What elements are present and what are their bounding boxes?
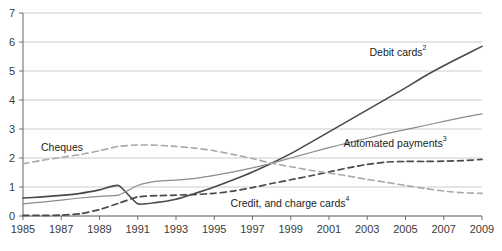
data-series-group (23, 46, 482, 215)
x-tick-label-1987: 1987 (49, 223, 73, 235)
series-line-cheques (23, 145, 482, 193)
series-label-debit-cards: Debit cards2 (369, 43, 426, 58)
x-tick-label-1995: 1995 (202, 223, 226, 235)
x-tick-label-2003: 2003 (355, 223, 379, 235)
series-label-footnote-credit-and-charge-cards: 4 (346, 194, 350, 201)
line-chart: 01234567 1985198719891991199319951997199… (0, 0, 502, 251)
series-labels-group: Debit cards2Automated payments3Credit, a… (41, 43, 447, 209)
x-tick-label-1997: 1997 (240, 223, 264, 235)
series-label-name-automated-payments: Automated payments (343, 137, 442, 149)
x-tick-label-2007: 2007 (432, 223, 456, 235)
y-tick-label-6: 6 (9, 36, 15, 48)
y-tick-label-3: 3 (9, 123, 15, 135)
series-label-credit-and-charge-cards: Credit, and charge cards4 (231, 194, 350, 209)
y-tick-label-1: 1 (9, 181, 15, 193)
y-tick-label-7: 7 (9, 7, 15, 19)
series-label-automated-payments: Automated payments3 (343, 134, 446, 149)
x-tick-label-2001: 2001 (317, 223, 341, 235)
y-axis-tick-labels: 01234567 (9, 7, 15, 222)
x-axis-tick-labels: 1985198719891991199319951997199920012003… (11, 223, 494, 235)
x-tick-label-2005: 2005 (393, 223, 417, 235)
series-label-name-credit-and-charge-cards: Credit, and charge cards (231, 197, 346, 209)
series-label-cheques: Cheques (41, 141, 83, 153)
x-tick-label-1985: 1985 (11, 223, 35, 235)
x-tick-label-1993: 1993 (164, 223, 188, 235)
series-label-footnote-debit-cards: 2 (423, 43, 427, 50)
series-label-name-cheques: Cheques (41, 141, 83, 153)
gridlines-group (23, 13, 482, 216)
x-axis-ticks-group (23, 216, 482, 220)
series-label-footnote-automated-payments: 3 (443, 134, 447, 141)
y-tick-label-5: 5 (9, 65, 15, 77)
x-tick-label-2009: 2009 (470, 223, 494, 235)
y-tick-label-2: 2 (9, 152, 15, 164)
x-tick-label-1999: 1999 (279, 223, 303, 235)
chart-canvas: 01234567 1985198719891991199319951997199… (0, 0, 502, 251)
series-label-name-debit-cards: Debit cards (369, 46, 422, 58)
y-tick-label-4: 4 (9, 94, 15, 106)
x-tick-label-1991: 1991 (126, 223, 150, 235)
y-tick-label-0: 0 (9, 210, 15, 222)
x-tick-label-1989: 1989 (87, 223, 111, 235)
y-axis-ticks-group (19, 13, 23, 216)
series-line-debit-cards (23, 46, 482, 204)
